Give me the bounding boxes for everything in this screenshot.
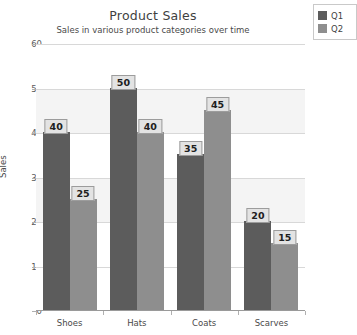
chart-title: Product Sales: [0, 8, 306, 23]
x-axis-tick-mark: [103, 311, 104, 315]
legend[interactable]: Q1 Q2: [313, 4, 357, 40]
bar-q2-shoes[interactable]: [70, 199, 97, 310]
bar-q1-coats[interactable]: [177, 154, 204, 310]
legend-item-q2[interactable]: Q2: [318, 22, 353, 35]
x-axis-tick-label-shoes: Shoes: [57, 318, 83, 328]
bar-value-label: 25: [71, 186, 94, 201]
x-axis-tick-mark: [171, 311, 172, 315]
x-axis-tick-label-coats: Coats: [192, 318, 216, 328]
x-axis-tick-mark: [305, 311, 306, 315]
bar-value-label: 20: [246, 208, 269, 223]
bar-value-label: 40: [139, 119, 162, 134]
bar-q2-scarves[interactable]: [271, 243, 298, 310]
legend-item-q1[interactable]: Q1: [318, 9, 353, 22]
bar-group: [177, 44, 231, 310]
bar-q1-hats[interactable]: [110, 88, 137, 311]
legend-swatch-q2-icon: [318, 24, 327, 33]
bar-value-label: 15: [273, 230, 296, 245]
bar-value-label: 50: [112, 75, 135, 90]
bar-group: [244, 44, 298, 310]
x-axis-tick-mark: [36, 311, 37, 315]
bar-q1-shoes[interactable]: [43, 132, 70, 310]
legend-label-q1: Q1: [331, 11, 343, 21]
y-axis-title: Sales: [0, 155, 8, 178]
bar-value-label: 35: [179, 141, 202, 156]
legend-swatch-q1-icon: [318, 11, 327, 20]
bar-value-label: 45: [206, 97, 229, 112]
plot-area: [36, 44, 305, 311]
x-axis-tick-label-scarves: Scarves: [255, 318, 288, 328]
bar-q2-hats[interactable]: [137, 132, 164, 310]
bar-value-label: 40: [45, 119, 68, 134]
chart-subtitle: Sales in various product categories over…: [0, 25, 306, 35]
bar-q2-coats[interactable]: [204, 110, 231, 310]
legend-label-q2: Q2: [331, 24, 343, 34]
x-axis-tick-label-hats: Hats: [127, 318, 146, 328]
bar-group: [43, 44, 97, 310]
bar-q1-scarves[interactable]: [244, 221, 271, 310]
x-axis-tick-mark: [238, 311, 239, 315]
